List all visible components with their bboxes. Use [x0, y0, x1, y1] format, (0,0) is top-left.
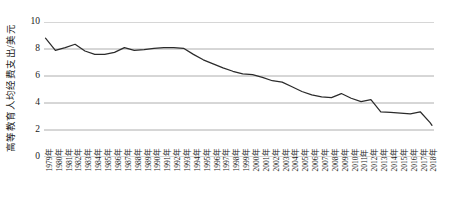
x-tick-1988: 1988年 — [130, 159, 139, 209]
x-tick-1987: 1987年 — [120, 159, 129, 209]
x-tick-2013: 2013年 — [376, 159, 385, 209]
y-tick-2: 2 — [35, 125, 40, 135]
x-tick-1998: 1998年 — [228, 159, 237, 209]
x-tick-1982: 1982年 — [71, 159, 80, 209]
x-tick-1989: 1989年 — [140, 159, 149, 209]
x-tick-1983: 1983年 — [80, 159, 89, 209]
x-tick-1984: 1984年 — [90, 159, 99, 209]
x-tick-1980: 1980年 — [51, 159, 60, 209]
x-tick-1979: 1979年 — [41, 159, 50, 209]
x-tick-1992: 1992年 — [169, 159, 178, 209]
x-tick-2005: 2005年 — [297, 159, 306, 209]
x-axis-tick-labels: 1979年1980年1981年1982年1983年1984年1985年1986年… — [44, 159, 434, 209]
x-tick-2012: 2012年 — [366, 159, 375, 209]
y-tick-10: 10 — [31, 17, 41, 27]
x-tick-label: 2018年 — [430, 148, 438, 171]
x-tick-1981: 1981年 — [61, 159, 70, 209]
chart-container: 高等教育人均经费支出/美元 0246810 1979年1980年1981年198… — [0, 0, 451, 210]
x-tick-2000: 2000年 — [248, 159, 257, 209]
x-tick-1999: 1999年 — [238, 159, 247, 209]
y-axis-title-text: 高等教育人均经费支出/美元 — [3, 24, 17, 152]
x-tick-2007: 2007年 — [317, 159, 326, 209]
y-tick-6: 6 — [35, 71, 40, 81]
y-axis-tick-labels: 0246810 — [18, 0, 42, 210]
y-tick-4: 4 — [35, 98, 40, 108]
x-tick-2002: 2002年 — [268, 159, 277, 209]
x-tick-2004: 2004年 — [288, 159, 297, 209]
plot-area — [44, 22, 434, 157]
x-tick-2009: 2009年 — [337, 159, 346, 209]
gridlines — [44, 22, 434, 157]
x-tick-2010: 2010年 — [347, 159, 356, 209]
x-tick-1990: 1990年 — [149, 159, 158, 209]
x-tick-2003: 2003年 — [278, 159, 287, 209]
x-tick-2008: 2008年 — [327, 159, 336, 209]
y-axis-title: 高等教育人均经费支出/美元 — [2, 18, 18, 158]
x-tick-1996: 1996年 — [209, 159, 218, 209]
x-tick-2015: 2015年 — [396, 159, 405, 209]
line-chart-svg — [44, 22, 434, 157]
x-tick-1986: 1986年 — [110, 159, 119, 209]
x-tick-2011: 2011年 — [357, 159, 366, 209]
x-tick-1991: 1991年 — [159, 159, 168, 209]
y-tick-8: 8 — [35, 44, 40, 54]
x-tick-1993: 1993年 — [179, 159, 188, 209]
x-tick-2014: 2014年 — [386, 159, 395, 209]
x-tick-2006: 2006年 — [307, 159, 316, 209]
x-tick-2017: 2017年 — [416, 159, 425, 209]
x-tick-2001: 2001年 — [258, 159, 267, 209]
x-tick-2018: 2018年 — [426, 159, 435, 209]
x-tick-1994: 1994年 — [189, 159, 198, 209]
x-tick-1995: 1995年 — [199, 159, 208, 209]
y-tick-0: 0 — [35, 152, 40, 162]
x-tick-1997: 1997年 — [218, 159, 227, 209]
x-tick-1985: 1985年 — [100, 159, 109, 209]
data-series-line — [46, 38, 433, 125]
x-tick-2016: 2016年 — [406, 159, 415, 209]
